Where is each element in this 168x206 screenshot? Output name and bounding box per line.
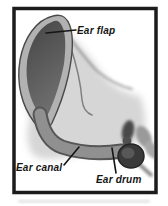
ear-drum-label: Ear drum bbox=[96, 174, 142, 186]
dog-ear-anatomy-figure: Ear flap Ear canal Ear drum bbox=[0, 0, 168, 206]
scan-artifact bbox=[18, 200, 150, 203]
ear-canal-label: Ear canal bbox=[16, 162, 62, 174]
ear-flap-label: Ear flap bbox=[77, 25, 115, 37]
ear-drum-highlight bbox=[122, 148, 135, 159]
